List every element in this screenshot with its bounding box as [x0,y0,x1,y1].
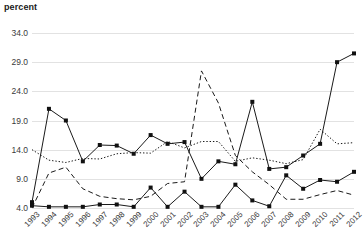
data-point-marker [335,60,339,64]
data-point-marker [47,107,51,111]
data-point-marker [216,205,220,209]
x-axis-tick-label: 2006 [243,210,262,229]
y-axis-tick-label: 9.0 [16,174,28,184]
x-axis-tick-label: 1994 [39,210,58,229]
data-point-marker [30,204,34,208]
data-point-marker [183,140,187,144]
data-point-marker [250,198,254,202]
y-axis-title: percent [4,2,37,12]
series-line-series-4 [32,172,354,207]
data-point-marker [284,173,288,177]
data-point-marker [115,144,119,148]
data-point-marker [284,165,288,169]
x-axis-tick-label: 2011 [328,210,347,229]
data-point-marker [250,100,254,104]
x-axis-tick-label: 2010 [311,210,330,229]
x-axis-tick-label: 1997 [90,210,109,229]
data-point-marker [199,177,203,181]
data-point-marker [30,200,34,204]
series-line-series-2 [32,129,354,163]
data-point-marker [318,142,322,146]
x-axis-tick-label: 2001 [158,210,177,229]
data-point-marker [149,133,153,137]
data-point-marker [267,204,271,208]
y-axis-tick-label: 4.0 [16,203,28,213]
x-axis-tick-label: 1996 [73,210,92,229]
data-point-marker [81,205,85,209]
series-layer [32,33,354,208]
x-axis-tick-label: 2008 [277,210,296,229]
x-axis-tick-label: 2002 [175,210,194,229]
data-point-marker [98,203,102,207]
data-point-marker [81,159,85,163]
y-axis-tick-label: 34.0 [11,28,28,38]
x-axis-tick-label: 2000 [141,210,160,229]
data-point-marker [199,205,203,209]
x-axis-tick-label: 2005 [226,210,245,229]
plot-area: 4.09.014.019.024.029.034.0 1993199419951… [32,33,354,208]
x-axis-tick-label: 1999 [124,210,143,229]
data-point-marker [301,187,305,191]
y-axis-tick-label: 19.0 [11,116,28,126]
data-point-marker [233,183,237,187]
x-axis-tick-label: 2012 [345,210,364,229]
data-point-marker [47,205,51,209]
y-axis-tick-label: 24.0 [11,86,28,96]
data-point-marker [98,143,102,147]
data-point-marker [352,170,356,174]
x-axis-tick-label: 1995 [56,210,75,229]
x-axis-tick-label: 1998 [107,210,126,229]
data-point-marker [352,51,356,55]
x-axis-tick-label: 2007 [260,210,279,229]
data-point-marker [267,167,271,171]
data-point-marker [132,205,136,209]
y-axis-tick-label: 14.0 [11,145,28,155]
data-point-marker [318,178,322,182]
data-point-marker [166,205,170,209]
data-point-marker [64,119,68,123]
x-axis-tick-label: 2003 [192,210,211,229]
x-axis-tick-label: 2009 [294,210,313,229]
data-point-marker [149,186,153,190]
y-axis-tick-label: 29.0 [11,57,28,67]
data-point-marker [216,159,220,163]
x-axis-tick-label: 2004 [209,210,228,229]
data-point-marker [233,162,237,166]
data-point-marker [115,203,119,207]
data-point-marker [335,180,339,184]
data-point-marker [183,190,187,194]
data-point-marker [64,205,68,209]
data-point-marker [301,154,305,158]
